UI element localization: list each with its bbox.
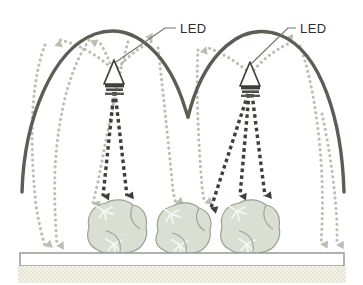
reflector-right [188,32,344,192]
led-reflector-diagram: LED LED [0,0,363,285]
reflected-ray-down-left-d [158,48,176,203]
led-label-left: LED [180,21,207,36]
reflected-ray-down-left-a [32,45,45,246]
led-base-band [241,86,260,89]
plant-2 [156,203,211,255]
direct-ray-right-3 [252,94,265,196]
substrate-band [18,266,346,283]
reflector-group [22,31,344,192]
reflected-ray-down-left-b [55,36,92,246]
plant-row [88,200,280,255]
led-base-band [105,84,124,87]
plant-1 [88,200,147,255]
led-beam-band [241,95,260,97]
direct-ray-group-left [103,92,127,196]
reflected-ray-down-right-c [322,114,337,245]
led-label-right: LED [300,21,327,36]
led-beam-band [105,93,124,95]
reflected-ray-up-right-a [206,47,246,70]
plant-3 [221,200,280,255]
direct-ray-left-2 [115,92,127,196]
grow-bench [20,253,344,266]
diagram-canvas: LED LED [0,0,363,285]
direct-ray-group-right [211,94,265,208]
reflected-ray-up-left-b [98,40,112,68]
led-beam-band [106,88,123,91]
led-beam-band [242,90,259,93]
